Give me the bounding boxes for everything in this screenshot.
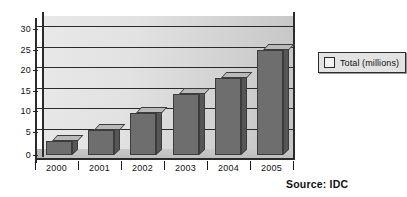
y-tick-label: 25: [12, 45, 31, 55]
y-tick-label: 30: [12, 24, 31, 34]
y-tick-label-wrap: 25: [12, 45, 31, 56]
bar: [173, 88, 199, 155]
x-tick-label: 2005: [250, 163, 293, 173]
source-note: Source: IDC: [286, 178, 348, 190]
y-tick-label-wrap: 15: [12, 86, 31, 97]
bar-side-face: [241, 72, 247, 155]
bar-chart: 051015202530 200020012002200320042005 To…: [0, 0, 407, 197]
bar-side-face: [199, 89, 205, 155]
bar-side-face: [283, 44, 289, 155]
x-tick-label: 2002: [121, 163, 164, 173]
x-tick-label: 2003: [164, 163, 207, 173]
y-axis-back-line: [42, 12, 44, 157]
bar-front-face: [88, 130, 114, 155]
legend-label-total: Total (millions): [340, 58, 399, 68]
y-tick-label: 10: [12, 106, 31, 116]
gridline: [42, 26, 295, 27]
bar: [46, 135, 72, 155]
bar-front-face: [257, 50, 283, 155]
bar-front-face: [130, 113, 156, 155]
chart-legend[interactable]: Total (millions): [318, 52, 406, 73]
y-tick-label: 15: [12, 86, 31, 96]
bar-front-face: [173, 94, 199, 155]
x-tick-mark: [293, 161, 294, 170]
bar: [88, 124, 114, 155]
y-tick-label-wrap: 30: [12, 24, 31, 35]
y-tick-label-wrap: 5: [12, 127, 31, 138]
y-axis-front-line: [35, 18, 37, 163]
x-tick-label: 2004: [207, 163, 250, 173]
x-tick-label: 2001: [78, 163, 121, 173]
bar-side-face: [156, 107, 162, 155]
plot-right-edge-line: [293, 12, 295, 159]
bar-front-face: [46, 141, 72, 155]
y-tick-label: 0: [12, 150, 31, 160]
bar: [130, 107, 156, 155]
x-axis-baseline: [35, 158, 295, 160]
y-tick-label: 20: [12, 65, 31, 75]
y-tick-label: 5: [12, 127, 31, 137]
x-tick-label: 2000: [35, 163, 78, 173]
bar: [215, 72, 241, 155]
y-tick-label-wrap: 20: [12, 65, 31, 76]
bar: [257, 44, 283, 155]
legend-swatch-total: [324, 57, 335, 68]
y-tick-label-wrap: 10: [12, 106, 31, 117]
bar-front-face: [215, 78, 241, 155]
y-tick-label-wrap: 0: [12, 150, 31, 161]
